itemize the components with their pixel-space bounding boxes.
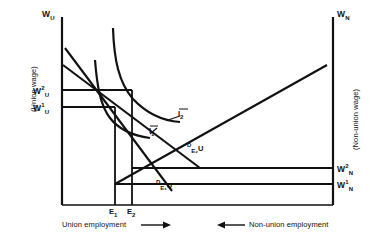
curve-label-i1: I1	[149, 127, 154, 137]
nonunion-employment-arrow	[217, 222, 245, 229]
wage-label-w1u: W1U	[33, 102, 49, 115]
wage-label-w1n: W1N	[337, 179, 353, 192]
employment-label-e1: E1	[109, 208, 117, 218]
union-employment-arrow	[141, 222, 171, 229]
bottom-caption-union: Union employment	[62, 221, 126, 229]
indifference-curve-i2	[113, 28, 180, 122]
diagram-canvas: WU WN (Union wage) (Non-union wage) W2U …	[0, 0, 370, 238]
axis-cap-wu: WU	[42, 10, 55, 21]
curve-label-i2: I2	[178, 110, 183, 120]
wage-label-w2u: W2U	[33, 85, 49, 98]
right-axis-title: (Non-union wage)	[352, 89, 360, 150]
wage-label-w2n: W2N	[337, 163, 353, 176]
employment-label-e2: E2	[127, 208, 135, 218]
curve-label-de1u: DE₁U	[156, 179, 172, 191]
curve-label-de2u: DE₂U	[187, 142, 203, 154]
diagram-graphics	[0, 0, 370, 238]
bottom-caption-nonunion: Non-union employment	[249, 221, 329, 229]
axis-cap-wn: WN	[337, 10, 350, 21]
nonunion-supply-line	[115, 65, 327, 184]
